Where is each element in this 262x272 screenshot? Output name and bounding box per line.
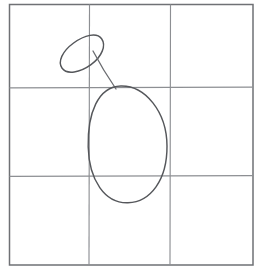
grid-horizontal-line-2: [10, 176, 252, 177]
sketch-canvas: [0, 0, 262, 272]
sketch-drawing: [0, 0, 262, 272]
grid-vertical-line-2: [170, 5, 171, 264]
canvas-background: [0, 0, 262, 272]
